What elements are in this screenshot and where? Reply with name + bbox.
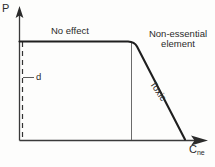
- figure-canvas: [0, 0, 215, 167]
- annotation-non-essential-element: Non-essentialelement: [145, 29, 211, 49]
- annotation-non-essential-line2: element: [145, 39, 211, 49]
- x-axis-label-subscript: ne: [197, 149, 205, 156]
- y-axis-label: P: [2, 3, 9, 15]
- x-axis-label-base: C: [189, 143, 197, 155]
- dose-response-figure: P Cne No effect Non-essentialelement Tox…: [0, 0, 215, 167]
- x-axis-label: Cne: [189, 144, 205, 156]
- annotation-deficiency-marker: d: [36, 72, 41, 82]
- annotation-no-effect: No effect: [51, 26, 89, 36]
